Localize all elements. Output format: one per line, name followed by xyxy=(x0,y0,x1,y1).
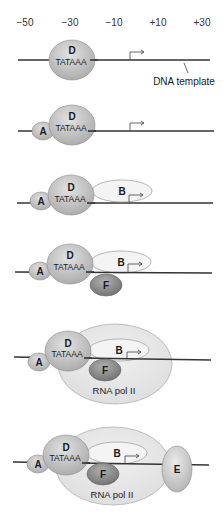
step-2-panel: A D TATAAA xyxy=(18,105,214,145)
transcription-initiation-diagram: −50 −30 −10 +10 +30 D TATAAA DNA templat… xyxy=(0,0,223,520)
position-label: +30 xyxy=(194,17,211,28)
factor-d-label: D xyxy=(64,338,71,349)
position-label: +10 xyxy=(150,17,167,28)
step-5-panel: B F RNA pol II A D TATAAA xyxy=(14,324,211,404)
tata-box-label: TATAAA xyxy=(54,194,86,204)
tata-box-label: TATAAA xyxy=(49,453,81,463)
factor-a-label: A xyxy=(39,126,46,137)
step-3-panel: B A D TATAAA xyxy=(17,175,213,215)
position-axis: −50 −30 −10 +10 +30 xyxy=(17,17,211,28)
factor-f-label: F xyxy=(100,469,106,480)
factor-d-label: D xyxy=(68,111,75,122)
tata-box-label: TATAAA xyxy=(55,123,87,133)
factor-f-label: F xyxy=(102,365,108,376)
factor-b-label: B xyxy=(113,448,120,459)
step-4-panel: B F A D TATAAA xyxy=(15,244,212,296)
factor-a-label: A xyxy=(34,459,41,470)
rna-pol-ii-label: RNA pol II xyxy=(93,385,136,396)
factor-d-label: D xyxy=(67,182,74,193)
transcription-start-arrow-icon xyxy=(130,50,144,60)
dna-template-label: DNA template xyxy=(153,76,215,87)
factor-a-label: A xyxy=(36,266,43,277)
tata-box-label: TATAAA xyxy=(51,349,83,359)
step-1-panel: D TATAAA DNA template xyxy=(18,40,215,87)
factor-d-label: D xyxy=(68,45,75,56)
transcription-start-arrow-icon xyxy=(130,121,144,131)
step-6-panel: B E F RNA pol II A D TATAAA xyxy=(13,427,209,505)
tata-box-label: TATAAA xyxy=(53,262,85,272)
factor-b-label: B xyxy=(118,186,125,197)
dna-template-pointer xyxy=(184,63,188,73)
factor-b-label: B xyxy=(115,345,122,356)
factor-f-label: F xyxy=(103,280,109,291)
factor-d-label: D xyxy=(62,442,69,453)
position-label: −50 xyxy=(17,17,34,28)
factor-e-label: E xyxy=(174,464,181,475)
factor-a-label: A xyxy=(35,357,42,368)
factor-d-label: D xyxy=(66,250,73,261)
position-label: −10 xyxy=(106,17,123,28)
tata-box-label: TATAAA xyxy=(55,57,87,67)
rna-pol-ii-label: RNA pol II xyxy=(91,489,134,500)
position-label: −30 xyxy=(62,17,79,28)
factor-b-label: B xyxy=(117,257,124,268)
factor-a-label: A xyxy=(37,196,44,207)
